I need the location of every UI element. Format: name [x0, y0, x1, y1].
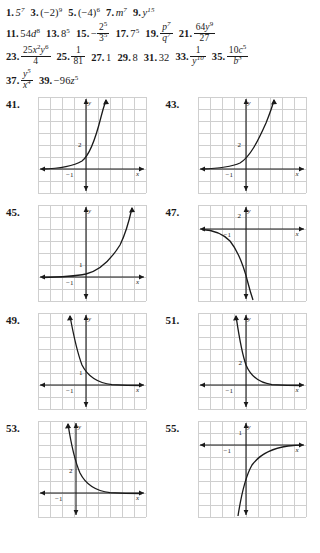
- graph-cell-53: 53. y x 2 −1: [0, 418, 160, 529]
- y-axis-label-41: y: [88, 99, 91, 107]
- axis-arrows-51: [200, 315, 304, 407]
- y-axis-label-55: y: [248, 423, 251, 431]
- answer-number: 31.: [144, 52, 157, 63]
- answer-expression: p7q7: [160, 23, 172, 44]
- answer-item-13: 13.85: [46, 23, 70, 44]
- y-intercept-tick-55: 1: [239, 429, 243, 437]
- y-intercept-tick-41: 2: [78, 141, 82, 149]
- y-axis-label-51: y: [248, 315, 251, 323]
- answer-expression: y15: [143, 7, 155, 18]
- answer-expression: 1: [106, 52, 111, 63]
- graph-cell-51: 51. y x 2 −1: [160, 310, 320, 418]
- answer-number: 29.: [117, 52, 130, 63]
- answer-expression: 32: [159, 52, 170, 63]
- graph-panel-55: y x 1 −1: [198, 421, 306, 517]
- y-axis-label-43: y: [248, 99, 251, 107]
- graph-panel-41: y x 2 −1: [38, 97, 146, 193]
- graph-label-41: 41.: [6, 98, 20, 110]
- answer-expression: 75: [130, 28, 139, 39]
- x-tick-51: −1: [226, 387, 233, 395]
- x-axis-label-53: x: [136, 494, 139, 502]
- answer-expression: (−4)6: [78, 7, 100, 18]
- y-intercept-tick-49: 1: [79, 369, 83, 377]
- graph-cell-43: 43. y x 2 −1: [160, 94, 320, 202]
- curve-43: [198, 97, 306, 193]
- x-axis-label-49: x: [136, 386, 139, 394]
- x-tick-49: −1: [66, 387, 73, 395]
- answer-expression: 25x2y64: [21, 46, 51, 67]
- answer-item-39: 39.−96z5: [39, 70, 78, 91]
- answer-item-19: 19.p7q7: [145, 23, 172, 45]
- x-tick-43: −1: [226, 171, 233, 179]
- answer-item-35: 35.10c5b3: [212, 46, 249, 68]
- x-axis-label-45: x: [136, 278, 139, 286]
- x-tick-55: −1: [224, 447, 231, 455]
- answer-item-31: 31.32: [144, 47, 170, 68]
- y-axis-label-47: y: [248, 207, 251, 215]
- curve-55: [198, 421, 306, 517]
- answer-key-text: 1.573.(−2)95.(−4)67.m79.y15 11.54d813.85…: [0, 0, 319, 92]
- answer-expression: 8: [132, 52, 137, 63]
- y-intercept-tick-43: 2: [238, 141, 242, 149]
- answer-expression: 54d8: [20, 28, 40, 39]
- graph-cell-41: 41. y x 2 −1: [0, 94, 160, 202]
- answer-expression: 57: [16, 7, 25, 18]
- answer-item-1: 1.57: [6, 4, 25, 21]
- answer-number: 17.: [115, 28, 128, 39]
- answer-number: 33.: [175, 51, 188, 62]
- answer-item-11: 11.54d8: [6, 23, 40, 44]
- answer-item-7: 7.m7: [106, 4, 127, 21]
- graph-row-3: 49. y x 1 −1: [0, 310, 319, 418]
- x-axis-label-51: x: [296, 386, 299, 394]
- answer-expression: y5x4: [21, 70, 33, 91]
- graph-label-55: 55.: [166, 422, 180, 434]
- answer-number: 5.: [68, 7, 76, 18]
- graph-cell-45: 45. y x 1 −1: [0, 202, 160, 310]
- curve-41: [38, 97, 146, 193]
- answer-item-3: 3.(−2)9: [31, 4, 63, 21]
- graph-label-43: 43.: [166, 98, 180, 110]
- graph-cell-49: 49. y x 1 −1: [0, 310, 160, 418]
- graph-answers-section: 41. y x 2 −1: [0, 94, 319, 529]
- answer-expression: −96z5: [54, 75, 79, 86]
- graph-label-45: 45.: [6, 206, 20, 218]
- answer-expression: (−2)9: [40, 7, 62, 18]
- answer-item-37: 37.y5x4: [6, 70, 33, 92]
- answer-item-33: 33.1y10: [175, 46, 205, 68]
- x-tick-41: −1: [66, 171, 73, 179]
- answer-line-1: 1.573.(−2)95.(−4)67.m79.y15: [6, 3, 314, 21]
- curve-47: [198, 205, 306, 301]
- answer-number: 15.: [76, 28, 89, 39]
- graph-row-4: 53. y x 2 −1: [0, 418, 319, 529]
- answer-item-27: 27.1: [91, 47, 111, 68]
- graph-label-53: 53.: [6, 422, 20, 434]
- answer-item-25: 25.181: [57, 46, 86, 68]
- answer-number: 23.: [6, 51, 19, 62]
- x-axis-label-55: x: [296, 446, 299, 454]
- answer-line-3: 23.25x2y6425.18127.129.831.3233.1y1035.1…: [6, 46, 314, 69]
- x-axis-label-43: x: [296, 170, 299, 178]
- graph-label-49: 49.: [6, 314, 20, 326]
- answer-number: 25.: [57, 51, 70, 62]
- y-intercept-tick-45: 1: [79, 261, 83, 269]
- answer-number: 21.: [179, 28, 192, 39]
- answer-number: 3.: [31, 7, 39, 18]
- answer-number: 1.: [6, 7, 14, 18]
- graph-panel-43: y x 2 −1: [198, 97, 306, 193]
- graph-panel-53: y x 2 −1: [38, 421, 146, 517]
- answer-item-23: 23.25x2y64: [6, 46, 51, 68]
- answer-expression: 1y10: [190, 46, 206, 67]
- x-tick-53: −1: [55, 495, 62, 503]
- graph-panel-47: y x 2 −1: [198, 205, 306, 301]
- answer-number: 7.: [106, 7, 114, 18]
- axis-arrows-55: [200, 423, 304, 515]
- graph-panel-51: y x 2 −1: [198, 313, 306, 409]
- y-axis-label-49: y: [88, 315, 91, 323]
- answer-expression: m7: [116, 7, 127, 18]
- answer-item-9: 9.y15: [133, 4, 155, 21]
- curve-49: [38, 313, 146, 409]
- graph-row-1: 41. y x 2 −1: [0, 94, 319, 202]
- answer-expression: 85: [61, 28, 70, 39]
- answer-line-2: 11.54d813.8515.−253517.7519.p7q721.64y92…: [6, 22, 314, 45]
- answer-item-21: 21.64y927: [179, 23, 216, 45]
